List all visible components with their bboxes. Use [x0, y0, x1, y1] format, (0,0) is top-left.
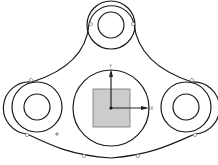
left-boss-outer-circle[interactable]	[12, 82, 62, 132]
y-axis-label: Y	[108, 63, 113, 69]
left-boss-hole[interactable]	[24, 94, 50, 120]
tangent-point[interactable]	[193, 133, 196, 136]
origin-point[interactable]	[109, 106, 112, 109]
tangent-point[interactable]	[25, 133, 28, 136]
right-boss-hole[interactable]	[173, 94, 199, 120]
tangent-point[interactable]	[89, 22, 92, 25]
tangent-point[interactable]	[82, 154, 85, 157]
sketch-canvas[interactable]: Y X	[0, 0, 218, 165]
x-arrow-icon	[141, 106, 149, 110]
x-axis-label: X	[150, 105, 154, 111]
tangent-point[interactable]	[190, 78, 193, 81]
tangent-point[interactable]	[131, 22, 134, 25]
top-boss-outer-circle[interactable]	[87, 1, 135, 49]
plus-marker	[55, 132, 59, 136]
tangent-point[interactable]	[29, 78, 32, 81]
right-boss-outer-circle[interactable]	[161, 82, 211, 132]
tangent-point[interactable]	[136, 154, 139, 157]
top-boss-hole[interactable]	[98, 12, 124, 38]
